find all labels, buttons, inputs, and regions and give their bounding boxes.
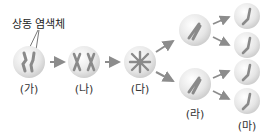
cell-da	[124, 46, 156, 78]
arrow-icon	[213, 71, 229, 78]
stage-label-ra: (라)	[186, 105, 205, 121]
cell-na	[68, 46, 100, 78]
stage-label-na: (나)	[75, 80, 94, 96]
cell-ma-3	[234, 59, 260, 85]
cell-ra-lower	[179, 68, 211, 100]
arrow-icon	[213, 17, 229, 24]
arrow-icon	[213, 91, 229, 99]
cell-ga	[13, 46, 45, 78]
arrow-icon	[213, 37, 229, 45]
cell-ma-2	[234, 32, 260, 58]
tetrad-chromosome-icon	[130, 52, 150, 72]
cell-ra-upper	[179, 14, 211, 46]
arrow-icon	[156, 41, 173, 52]
cell-ma-4	[234, 88, 260, 114]
cell-ma-1	[234, 3, 260, 29]
arrow-icon	[156, 72, 173, 81]
stage-label-ga: (가)	[20, 80, 39, 96]
stage-label-ma: (마)	[238, 117, 257, 133]
stage-label-da: (다)	[131, 80, 150, 96]
homologous-chromosome-annotation: 상동 염색체	[12, 15, 66, 31]
